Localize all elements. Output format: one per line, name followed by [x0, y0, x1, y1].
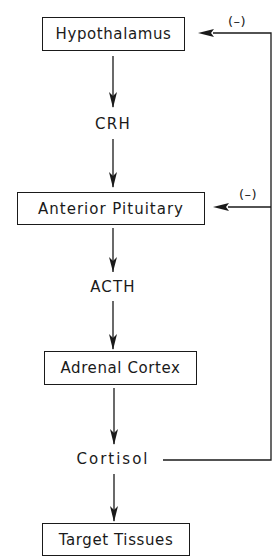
target-tissues-box: Target Tissues	[42, 523, 190, 556]
adrenal-cortex-box: Adrenal Cortex	[44, 351, 197, 385]
adrenal-cortex-label: Adrenal Cortex	[60, 359, 180, 377]
hypothalamus-label: Hypothalamus	[56, 25, 172, 43]
crh-label: CRH	[95, 115, 131, 133]
feedback-line	[163, 33, 271, 460]
anterior-pituitary-label: Anterior Pituitary	[38, 200, 184, 218]
hypothalamus-box: Hypothalamus	[42, 17, 185, 51]
anterior-pituitary-box: Anterior Pituitary	[17, 192, 205, 225]
acth-label: ACTH	[90, 278, 136, 296]
hpa-axis-diagram: Hypothalamus CRH Anterior Pituitary ACTH…	[0, 0, 280, 558]
negative-feedback-pituitary-label: (–)	[239, 187, 257, 202]
negative-feedback-hypothalamus-label: (–)	[228, 14, 246, 29]
connector-lines	[0, 0, 280, 558]
target-tissues-label: Target Tissues	[59, 531, 174, 549]
cortisol-label: Cortisol	[76, 450, 149, 468]
